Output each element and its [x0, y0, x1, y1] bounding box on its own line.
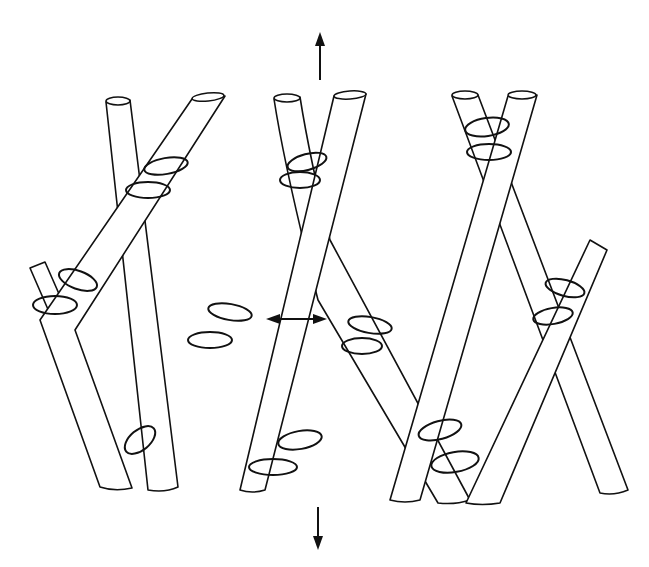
arrow-down-icon — [313, 507, 323, 550]
arrow-up-icon — [315, 32, 325, 80]
trellis-drawing — [0, 0, 649, 567]
lashing — [207, 300, 253, 323]
lashing — [188, 332, 232, 348]
lashing — [277, 427, 323, 452]
trellis-figure — [0, 0, 649, 567]
